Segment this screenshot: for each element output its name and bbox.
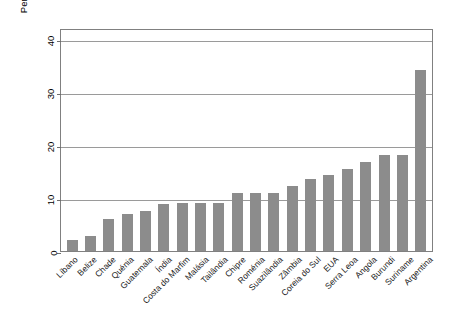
y-tick-label-10: 10	[22, 194, 61, 205]
y-tick-label-0: 0	[22, 248, 61, 259]
y-tick-value: 10	[45, 195, 56, 206]
y-tick-label-20: 20	[22, 141, 61, 152]
bar-chart: Percentual de mulheres no parlamento 010…	[0, 0, 458, 333]
y-tick-value: 20	[45, 142, 56, 153]
x-axis-labels: LíbanoBelizeChadeQuéniaGuatemalaÍndiaCos…	[60, 253, 433, 333]
bar	[415, 70, 426, 251]
y-tick-value: 30	[45, 88, 56, 99]
y-tick-label-40: 40	[22, 35, 61, 46]
y-tick-label-30: 30	[22, 88, 61, 99]
y-tick-value: 40	[45, 35, 56, 46]
plot-area: 010203040	[60, 29, 433, 252]
y-tick-value: 0	[48, 250, 59, 255]
bar-series	[61, 30, 432, 251]
